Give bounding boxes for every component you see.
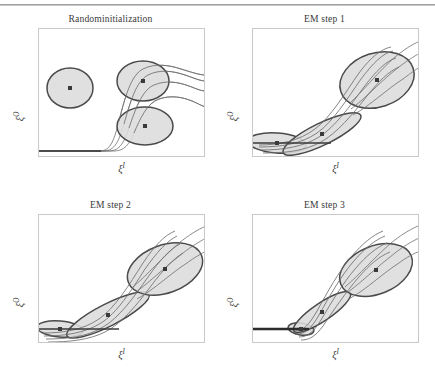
component-center	[374, 268, 378, 272]
y-axis-symbol-p2: ξ	[228, 117, 239, 121]
x-axis-superscript-p1: I	[122, 162, 124, 170]
y-axis-label-p2: ξO	[227, 87, 239, 121]
y-axis-symbol-p3: ξ	[14, 303, 25, 307]
component-center	[320, 132, 324, 136]
y-axis-superscript-p1: O	[13, 112, 21, 117]
y-axis-superscript-p4: O	[227, 298, 235, 303]
y-axis-superscript-p3: O	[13, 298, 21, 303]
panel-title-em-step-3: EM step 3	[218, 199, 431, 210]
x-axis-label-p1: ξI	[38, 162, 205, 174]
panel-em-step-2: EM step 2 ξO	[4, 196, 217, 378]
panel-em-step-1: EM step 1 ξO	[218, 10, 431, 192]
y-axis-symbol-p1: ξ	[14, 117, 25, 121]
y-axis-superscript-p2: O	[227, 112, 235, 117]
component-center	[141, 79, 145, 83]
plot-area-em-step-1	[252, 28, 419, 157]
component-center	[58, 327, 62, 331]
x-axis-superscript-p2: I	[336, 162, 338, 170]
ellipse-group-p4	[287, 234, 419, 339]
panel-title-random-init: Randominitialization	[4, 13, 217, 24]
ellipse-group-p1	[47, 61, 173, 145]
plot-area-random-init	[38, 28, 205, 157]
ellipse-group-p2	[253, 43, 419, 157]
ellipse-group-p3	[39, 233, 205, 343]
plot-svg-em-step-1	[253, 29, 419, 157]
x-axis-superscript-p3: I	[122, 348, 124, 356]
y-axis-label-p4: ξO	[227, 273, 239, 307]
component-center	[163, 267, 167, 271]
x-axis-label-p3: ξI	[38, 348, 205, 360]
component-center	[106, 313, 110, 317]
y-axis-symbol-p4: ξ	[228, 303, 239, 307]
x-axis-label-p2: ξI	[252, 162, 419, 174]
y-axis-label-p1: ξO	[13, 87, 25, 121]
figure-panel-grid: Randominitialization ξO	[0, 10, 435, 383]
gaussian-ellipse	[279, 105, 366, 157]
y-axis-label-p3: ξO	[13, 273, 25, 307]
panel-title-em-step-2: EM step 2	[4, 199, 217, 210]
component-center	[375, 78, 379, 82]
panel-title-em-step-1: EM step 1	[218, 13, 431, 24]
plot-svg-em-step-2	[39, 215, 205, 343]
plot-area-em-step-2	[38, 214, 205, 343]
plot-area-em-step-3	[252, 214, 419, 343]
component-center	[275, 141, 279, 145]
panel-random-init: Randominitialization ξO	[4, 10, 217, 192]
x-axis-label-p4: ξI	[252, 348, 419, 360]
component-center	[143, 124, 147, 128]
x-axis-superscript-p4: I	[336, 348, 338, 356]
plot-svg-em-step-3	[253, 215, 419, 343]
panel-em-step-3: EM step 3 ξO	[218, 196, 431, 378]
component-center	[320, 310, 324, 314]
component-center	[299, 327, 303, 331]
top-horizontal-rule	[0, 4, 435, 6]
component-center	[68, 86, 72, 90]
plot-svg-random-init	[39, 29, 205, 157]
